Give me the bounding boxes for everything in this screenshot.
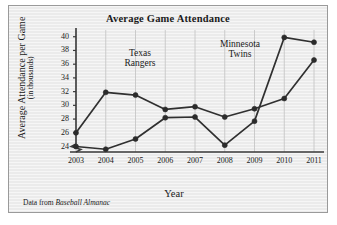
annotation-line-1: Minnesota — [205, 39, 275, 49]
y-tick-label-28: 28 — [49, 114, 69, 123]
data-point — [222, 115, 227, 120]
data-point — [193, 104, 198, 109]
data-point — [133, 93, 138, 98]
data-point — [282, 96, 287, 101]
x-tick-label-2011: 2011 — [297, 156, 331, 165]
annotation-line-2: Twins — [205, 49, 275, 59]
y-tick-label-40: 40 — [49, 32, 69, 41]
data-point — [74, 144, 79, 149]
series-annotation-texas-rangers: Texas Rangers — [105, 48, 175, 69]
data-point — [163, 107, 168, 112]
data-point — [282, 35, 287, 40]
y-tick-label-34: 34 — [49, 73, 69, 82]
data-point — [193, 115, 198, 120]
data-point — [312, 58, 317, 63]
y-tick-label-26: 26 — [49, 128, 69, 137]
data-point — [103, 147, 108, 152]
data-point — [252, 119, 257, 124]
source-title: Baseball Almanac — [56, 198, 111, 207]
chart-figure: Average Game Attendance Average Attendan… — [8, 5, 328, 213]
y-tick-label-36: 36 — [49, 59, 69, 68]
y-tick-label-38: 38 — [49, 45, 69, 54]
source-prefix: Data from — [23, 198, 56, 207]
data-point — [103, 90, 108, 95]
data-point — [133, 136, 138, 141]
y-tick-label-32: 32 — [49, 87, 69, 96]
data-point — [312, 40, 317, 45]
y-tick-label-30: 30 — [49, 100, 69, 109]
data-point — [222, 143, 227, 148]
annotation-line-1: Texas — [105, 48, 175, 58]
annotation-line-2: Rangers — [105, 58, 175, 68]
source-note: Data from Baseball Almanac — [23, 198, 110, 207]
y-tick-label-24: 24 — [49, 142, 69, 151]
series-annotation-minnesota-twins: Minnesota Twins — [205, 39, 275, 60]
data-point — [252, 106, 257, 111]
data-point — [163, 115, 168, 120]
axis-lines — [70, 28, 324, 152]
data-point — [74, 130, 79, 135]
